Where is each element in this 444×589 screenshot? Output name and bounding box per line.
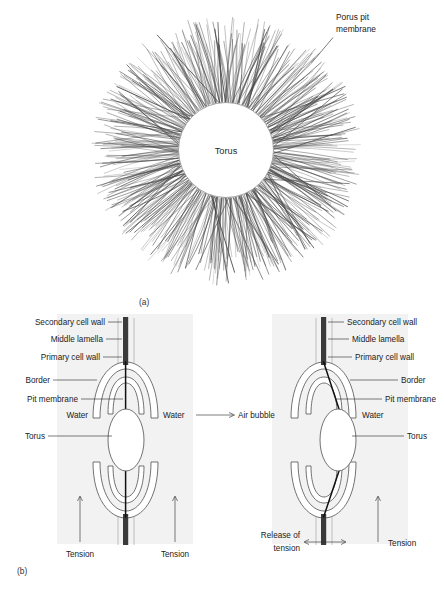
left-label-water-left: Water bbox=[66, 411, 88, 420]
right-label-tension: Tension bbox=[388, 539, 417, 548]
right-label-border: Border bbox=[401, 376, 426, 385]
left-label-primary-cell-wall: Primary cell wall bbox=[41, 353, 100, 362]
right-label-release-line2: tension bbox=[274, 544, 301, 553]
right-label-pit-membrane: Pit membrane bbox=[385, 395, 436, 404]
panel-b-caption: (b) bbox=[17, 566, 27, 576]
left-label-middle-lamella: Middle lamella bbox=[51, 335, 104, 344]
right-label-release-line1: Release of bbox=[261, 531, 301, 540]
right-torus bbox=[320, 409, 356, 471]
right-secondary-wall-bottom bbox=[321, 514, 326, 545]
left-label-tension-right: Tension bbox=[161, 550, 190, 559]
porus-pit-membrane-label-line1: Porus pit bbox=[336, 12, 370, 22]
left-secondary-wall-bottom bbox=[123, 514, 128, 545]
left-label-water-right: Water bbox=[163, 411, 185, 420]
left-label-tension-left: Tension bbox=[66, 550, 95, 559]
right-label-primary-cell-wall: Primary cell wall bbox=[355, 353, 414, 362]
left-label-pit-membrane: Pit membrane bbox=[27, 395, 78, 404]
right-label-secondary-cell-wall: Secondary cell wall bbox=[347, 318, 417, 327]
right-secondary-wall-top bbox=[321, 317, 326, 365]
left-torus bbox=[108, 409, 144, 471]
panel-a-caption: (a) bbox=[139, 297, 149, 307]
left-label-secondary-cell-wall: Secondary cell wall bbox=[35, 318, 105, 327]
left-label-border: Border bbox=[25, 376, 50, 385]
right-label-torus: Torus bbox=[407, 432, 427, 441]
right-label-middle-lamella: Middle lamella bbox=[352, 335, 405, 344]
air-bubble-label: Air bubble bbox=[238, 411, 275, 420]
left-secondary-wall-top bbox=[123, 317, 128, 365]
porus-pit-membrane-label-line2: membrane bbox=[336, 24, 376, 34]
left-label-torus: Torus bbox=[25, 432, 45, 441]
figure-torus-margo-pit: Torus Porus pit membrane (a) bbox=[0, 0, 444, 589]
right-label-water: Water bbox=[362, 411, 384, 420]
torus-label: Torus bbox=[215, 146, 238, 156]
